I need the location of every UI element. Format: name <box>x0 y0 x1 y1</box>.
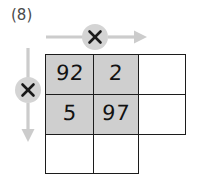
operator-badge-horizontal <box>82 24 108 50</box>
grid-cell-r0c2[interactable] <box>138 54 186 95</box>
multiply-icon <box>15 77 41 103</box>
multiplication-grid: 92 2 5 97 <box>45 54 186 174</box>
grid-cell-value: 92 <box>55 63 84 84</box>
grid-cell-r1c1[interactable]: 97 <box>93 94 139 135</box>
grid-cell-r1c0[interactable]: 5 <box>45 94 94 135</box>
grid-cell-r0c0[interactable]: 92 <box>45 54 94 95</box>
grid-cell-value: 97 <box>101 103 130 124</box>
grid-cell-r2c1[interactable] <box>93 134 139 174</box>
grid-cell-r1c2[interactable] <box>138 94 186 135</box>
grid-cell-r2c0[interactable] <box>45 134 94 174</box>
multiply-icon <box>82 24 108 50</box>
grid-cell-value: 5 <box>62 103 77 124</box>
worksheet-problem: (8) 92 2 <box>0 0 204 194</box>
problem-number-label: (8) <box>11 6 32 24</box>
grid-cell-value: 2 <box>108 63 123 84</box>
grid-cell-r0c1[interactable]: 2 <box>93 54 139 95</box>
operator-badge-vertical <box>15 77 41 103</box>
